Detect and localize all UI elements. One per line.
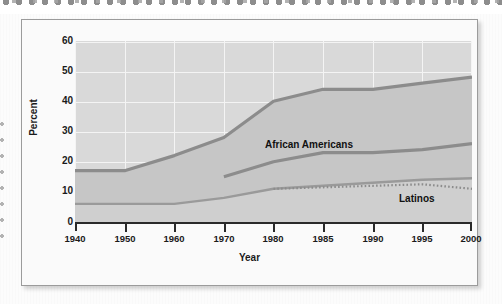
x-tick-mark-1985	[323, 224, 325, 232]
x-tick-2000: 2000	[446, 233, 496, 244]
x-tick-1970: 1970	[199, 233, 249, 244]
x-tick-mark-1960	[174, 224, 176, 232]
x-tick-1990: 1990	[348, 233, 398, 244]
chart-plot-area: African Americans Latinos Asian American…	[75, 41, 472, 222]
x-tick-mark-1950	[125, 224, 127, 232]
y-tick-50: 50	[33, 66, 73, 76]
y-axis-title: Percent	[28, 88, 39, 148]
y-tick-10: 10	[33, 186, 73, 196]
x-tick-mark-1995	[422, 224, 424, 232]
chart-figure-panel: African Americans Latinos Asian American…	[21, 19, 478, 286]
x-tick-1985: 1985	[298, 233, 348, 244]
y-tick-0: 0	[33, 217, 73, 227]
x-axis-tick-labels: 1940 1950 1960 1970 1980 1985 1990 1995 …	[75, 233, 472, 247]
page-edge-speckles-left	[0, 120, 6, 240]
series-label-african-americans: African Americans	[265, 139, 353, 150]
x-axis-title: Year	[22, 252, 477, 263]
y-tick-40: 40	[33, 96, 73, 106]
torn-paper-edge-speckles	[0, 0, 502, 8]
x-tick-1940: 1940	[50, 233, 100, 244]
x-tick-1950: 1950	[100, 233, 150, 244]
x-tick-mark-1970	[224, 224, 226, 232]
x-axis-line	[75, 222, 472, 231]
series-label-latinos: Latinos	[399, 193, 435, 204]
x-tick-1960: 1960	[149, 233, 199, 244]
x-tick-mark-1980	[273, 224, 275, 232]
x-tick-1995: 1995	[397, 233, 447, 244]
y-tick-60: 60	[33, 36, 73, 46]
x-tick-mark-1990	[373, 224, 375, 232]
y-tick-30: 30	[33, 126, 73, 136]
y-tick-20: 20	[33, 156, 73, 166]
x-tick-1980: 1980	[248, 233, 298, 244]
